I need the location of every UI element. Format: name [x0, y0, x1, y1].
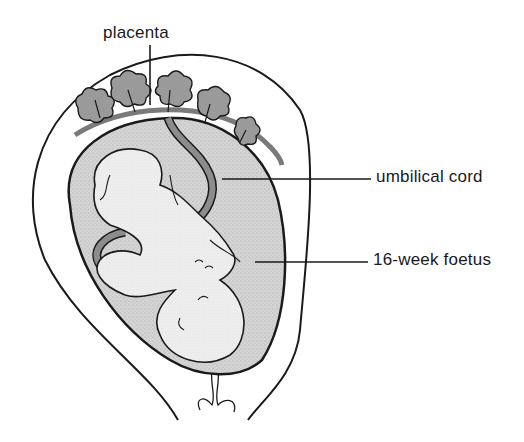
diagram-canvas: placenta umbilical cord 16-week foetus [0, 0, 524, 442]
label-foetus: 16-week foetus [373, 251, 491, 268]
cervix [198, 370, 234, 412]
uterus-illustration [0, 0, 524, 442]
label-umbilical-cord: umbilical cord [376, 168, 483, 185]
label-placenta: placenta [103, 24, 169, 41]
